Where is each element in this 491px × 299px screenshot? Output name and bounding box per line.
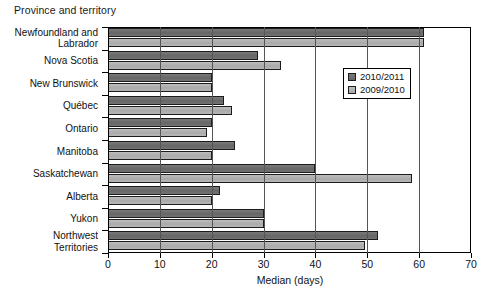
y-axis-label-line: Northwest — [53, 230, 98, 242]
gridline-30 — [264, 27, 265, 253]
gridline-20 — [212, 27, 213, 253]
bar — [108, 106, 232, 115]
y-axis-label: Québec — [63, 100, 98, 112]
y-axis-label: Saskatchewan — [33, 168, 98, 180]
legend-swatch-icon-2009-2010 — [348, 86, 356, 94]
bar-group — [108, 28, 471, 51]
bar-chart: Province and territory Newfoundland andL… — [0, 0, 491, 299]
y-axis-label-line: Manitoba — [57, 146, 98, 158]
bar-group — [108, 231, 471, 254]
y-axis-label-line: Territories — [53, 242, 98, 254]
x-axis-tick-label-70: 70 — [465, 258, 477, 270]
legend-label-2010-2011: 2010/2011 — [360, 72, 404, 82]
bar-group — [108, 73, 471, 96]
y-axis-label: Nova Scotia — [44, 55, 98, 67]
gridline-10 — [160, 27, 161, 253]
bar — [108, 51, 258, 60]
x-axis-tick-label-40: 40 — [310, 258, 322, 270]
x-axis-title-text: Median (days) — [257, 274, 324, 286]
x-axis-tick-label-60: 60 — [413, 258, 425, 270]
y-axis-label-line: New Brunswick — [30, 78, 98, 90]
y-axis-label-line: Alberta — [66, 191, 98, 203]
bar — [108, 96, 224, 105]
bar — [108, 219, 264, 228]
y-axis-label-line: Saskatchewan — [33, 168, 98, 180]
bar-rows — [108, 27, 471, 253]
chart-legend: 2010/2011 2009/2010 — [343, 68, 411, 99]
y-axis-label: Alberta — [66, 191, 98, 203]
bar — [108, 38, 424, 47]
y-axis-label: Newfoundland andLabrador — [15, 27, 98, 50]
y-axis-label-line: Yukon — [70, 213, 98, 225]
bar-group — [108, 186, 471, 209]
bar-group — [108, 51, 471, 74]
y-axis-label-line: Labrador — [15, 38, 98, 50]
bar-group — [108, 209, 471, 232]
bar — [108, 141, 235, 150]
gridline-60 — [419, 27, 420, 253]
gridline-40 — [315, 27, 316, 253]
x-axis-tick-label-20: 20 — [206, 258, 218, 270]
bar — [108, 186, 220, 195]
y-axis-label: Ontario — [65, 123, 98, 135]
y-axis-label-line: Ontario — [65, 123, 98, 135]
x-axis-tick-label-50: 50 — [361, 258, 373, 270]
bar-group — [108, 96, 471, 119]
y-axis-category-labels: Newfoundland andLabradorNova ScotiaNew B… — [0, 27, 104, 253]
legend-item-series-b: 2009/2010 — [348, 85, 405, 95]
bar — [108, 128, 207, 137]
bar-group — [108, 164, 471, 187]
legend-label-2009-2010: 2009/2010 — [360, 85, 405, 95]
y-axis-label-line: Nova Scotia — [44, 55, 98, 67]
x-axis-tick-label-30: 30 — [258, 258, 270, 270]
y-axis-label-line: Québec — [63, 100, 98, 112]
y-axis-label: NorthwestTerritories — [53, 230, 98, 253]
bar — [108, 28, 424, 37]
plot-area — [108, 27, 471, 253]
bar — [108, 231, 378, 240]
x-axis-tick-label-10: 10 — [154, 258, 166, 270]
bar — [108, 209, 264, 218]
chart-title: Province and territory — [14, 4, 116, 16]
legend-swatch-icon-2010-2011 — [348, 73, 356, 81]
bar — [108, 241, 365, 250]
x-axis-tick-labels: 010203040506070 — [0, 258, 491, 272]
bar — [108, 61, 281, 70]
y-axis-label: New Brunswick — [30, 78, 98, 90]
bar-group — [108, 141, 471, 164]
y-axis-label: Manitoba — [57, 146, 98, 158]
gridline-50 — [367, 27, 368, 253]
x-axis-tick-label-0: 0 — [105, 258, 111, 270]
legend-item-series-a: 2010/2011 — [348, 72, 405, 82]
y-axis-label-line: Newfoundland and — [15, 27, 98, 39]
bar-group — [108, 118, 471, 141]
bar — [108, 174, 412, 183]
y-axis-label: Yukon — [70, 213, 98, 225]
